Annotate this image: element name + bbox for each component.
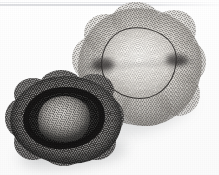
scan-edge-secondary-line [0, 2, 219, 3]
photograph-canvas [0, 0, 219, 175]
elastic-pinch-left [92, 58, 114, 71]
elastic-pinch-right [166, 54, 188, 66]
scan-edge-line [0, 4, 219, 6]
hair-net-dark [10, 76, 122, 164]
